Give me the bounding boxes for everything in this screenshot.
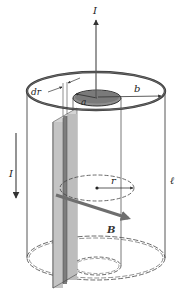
label-a: a	[81, 97, 86, 107]
label-dr: dr	[31, 87, 42, 97]
label-I-side: I	[8, 168, 14, 179]
label-r: r	[111, 175, 117, 186]
label-I-top: I	[92, 5, 98, 16]
inner-bottom-ellipse	[73, 257, 121, 275]
coaxial-cylinder-diagram: r B a b I dr I ℓ	[0, 0, 181, 304]
label-b: b	[134, 83, 140, 94]
label-length: ℓ	[170, 175, 174, 186]
label-B: B	[106, 224, 115, 235]
